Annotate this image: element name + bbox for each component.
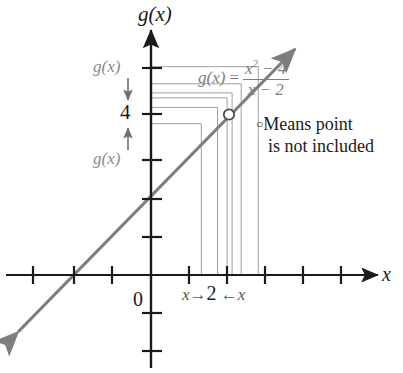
note-line-2: is not included [256, 136, 403, 158]
numerator-rest: − 4 [262, 59, 286, 78]
equation-numerator: x2 − 4 [243, 58, 289, 78]
function-equation: g(x) = x2 − 4 x − 2 [198, 58, 289, 99]
open-point-note: ○Means point is not included [256, 114, 403, 158]
note-line-1: Means point [263, 114, 353, 134]
arrow-right-icon: → [190, 285, 207, 304]
equation-denominator: x − 2 [246, 81, 286, 99]
figure-canvas: g(x) g(x) 4 g(x) 0 x x→2 ←x g(x) = x2 − … [0, 0, 403, 373]
open-point-marker [224, 109, 234, 119]
approach-target-value: 2 [207, 282, 217, 304]
approach-right-var: x [238, 285, 246, 304]
numerator-base: x [245, 59, 253, 78]
graph-svg [0, 0, 403, 373]
equation-equals-sign: = [229, 68, 239, 88]
approach-left-var: x [182, 285, 190, 304]
equation-lhs: g(x) [198, 68, 225, 88]
y-axis-label: g(x) [138, 4, 172, 25]
g-of-x-upper-label: g(x) [93, 58, 120, 75]
numerator-exponent: 2 [253, 57, 259, 69]
x-axis-label: x [382, 264, 391, 284]
origin-label: 0 [133, 289, 143, 309]
y-tick-label-4: 4 [120, 102, 131, 123]
limit-approach-label: x→2 ←x [182, 283, 245, 303]
arrow-left-icon: ← [221, 285, 238, 304]
g-of-x-lower-label: g(x) [93, 150, 120, 167]
equation-fraction: x2 − 4 x − 2 [243, 58, 289, 99]
